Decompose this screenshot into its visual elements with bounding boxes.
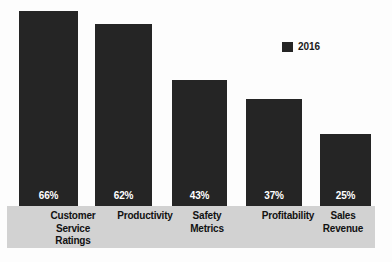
bar-value-label: 43% — [172, 190, 227, 202]
bar-group-0: 66% — [19, 11, 78, 206]
category-line: Ratings — [19, 235, 127, 248]
category-line: Service — [19, 223, 127, 236]
category-line: Safety — [169, 210, 245, 223]
bar-group-4: 25% — [320, 134, 371, 206]
bar-profitability[interactable]: 37% — [246, 99, 302, 206]
chart-legend: 2016 — [282, 41, 320, 52]
legend-label-2016: 2016 — [298, 41, 320, 52]
bar-group-3: 37% — [246, 99, 302, 206]
category-line: Metrics — [169, 223, 245, 236]
bar-sales-revenue[interactable]: 25% — [320, 134, 371, 206]
bar-productivity[interactable]: 62% — [95, 24, 152, 206]
bar-value-label: 62% — [95, 190, 152, 202]
bar-safety-metrics[interactable]: 43% — [172, 80, 227, 206]
category-label-safety-metrics: Safety Metrics — [169, 210, 245, 235]
bar-group-1: 62% — [95, 24, 152, 206]
bar-customer-service-ratings[interactable]: 66% — [19, 11, 78, 206]
bar-value-label: 25% — [320, 190, 371, 202]
plot-area: 66% 62% 43% 37% 25% — [0, 0, 392, 206]
category-label-sales-revenue: Sales Revenue — [311, 210, 375, 235]
bar-value-label: 66% — [19, 190, 78, 202]
legend-swatch-2016 — [282, 42, 293, 52]
bar-group-2: 43% — [172, 80, 227, 206]
bar-value-label: 37% — [246, 190, 302, 202]
category-line: Sales — [311, 210, 375, 223]
category-axis-band: Customer Service Ratings Productivity Sa… — [7, 206, 375, 248]
bar-chart: 66% 62% 43% 37% 25% 2016 — [0, 0, 392, 262]
category-line: Revenue — [311, 223, 375, 236]
